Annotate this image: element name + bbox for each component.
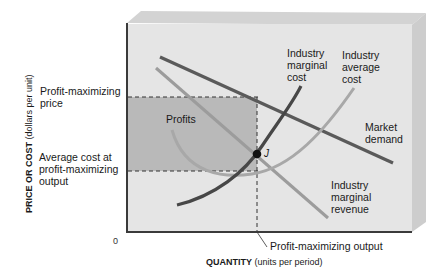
- x-axis-title-bold: QUANTITY: [206, 257, 252, 267]
- mr-label-line2: marginal: [331, 191, 371, 203]
- profits-label: Profits: [166, 113, 196, 125]
- mc-label-line1: Industry: [287, 47, 325, 59]
- panel-side-face: [412, 13, 426, 232]
- price-label-line2: price: [40, 97, 63, 109]
- ac-label-line3: cost: [342, 73, 361, 85]
- demand-label-line2: demand: [365, 133, 403, 145]
- avg-cost-label-line3: output: [39, 175, 68, 187]
- y-axis-title: PRICE OR COST (dollars per unit): [24, 74, 34, 213]
- ac-label-line2: average: [342, 61, 380, 73]
- y-axis-title-bold: PRICE OR COST: [24, 141, 34, 213]
- origin-label: 0: [113, 236, 118, 246]
- point-j-label: J: [263, 148, 270, 159]
- avg-cost-label-line1: Average cost at: [39, 151, 112, 163]
- y-axis-title-rest: (dollars per unit): [24, 74, 34, 142]
- price-label-line1: Profit-maximizing: [40, 85, 121, 97]
- x-axis-title: QUANTITY (units per period): [206, 257, 323, 267]
- mc-label-line3: cost: [287, 71, 306, 83]
- monopoly-profit-diagram: J Profits Industry marginal cost Industr…: [0, 0, 444, 280]
- avg-cost-label-line2: profit-maximizing: [39, 163, 119, 175]
- mc-label-line2: marginal: [287, 59, 327, 71]
- output-leader-line: [257, 232, 267, 247]
- ac-label-line1: Industry: [342, 49, 380, 61]
- point-j-marker: [253, 150, 262, 159]
- x-axis-title-rest: (units per period): [252, 257, 323, 267]
- demand-label-line1: Market: [365, 121, 397, 133]
- mr-label-line1: Industry: [331, 179, 369, 191]
- mr-label-line3: revenue: [331, 203, 369, 215]
- profits-area: [128, 97, 257, 171]
- panel-top-face: [127, 11, 426, 25]
- output-label: Profit-maximizing output: [270, 240, 383, 252]
